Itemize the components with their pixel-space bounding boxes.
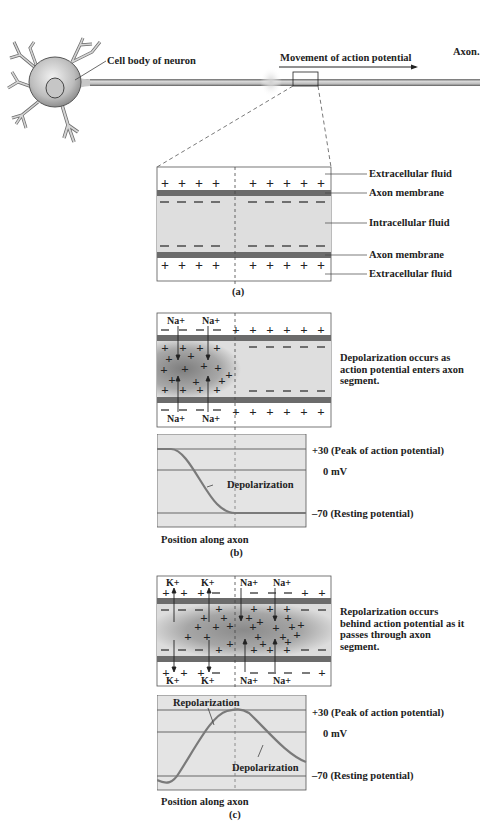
svg-text:+: + (160, 362, 167, 377)
depolarization-curve-label: Depolarization (227, 480, 294, 491)
movement-label: Movement of action potential (280, 53, 412, 64)
level-rest-b: –70 (Resting potential) (312, 509, 414, 520)
caption-a: (a) (232, 287, 244, 298)
svg-text:+: + (184, 629, 191, 644)
ion-label-k: K+ (201, 578, 214, 588)
svg-text:+: + (300, 176, 308, 191)
svg-text:+: + (256, 614, 263, 629)
label-extracellular-bottom: Extracellular fluid (369, 269, 452, 280)
level-peak-b: +30 (Peak of action potential) (312, 446, 444, 457)
svg-text:+: + (266, 404, 273, 419)
svg-text:+: + (168, 372, 175, 387)
svg-text:+: + (283, 258, 291, 273)
svg-text:+: + (300, 258, 308, 273)
svg-text:+: + (161, 176, 169, 191)
svg-text:+: + (226, 618, 233, 633)
svg-text:+: + (181, 361, 188, 376)
svg-text:+: + (232, 322, 239, 337)
svg-text:+: + (203, 629, 210, 644)
svg-text:+: + (213, 382, 220, 397)
svg-text:+: + (161, 258, 169, 273)
svg-text:+: + (213, 340, 220, 355)
ion-label-na: Na+ (167, 316, 185, 326)
svg-text:+: + (249, 322, 256, 337)
ion-label-na: Na+ (202, 414, 220, 424)
svg-text:+: + (317, 404, 324, 419)
svg-text:+: + (249, 258, 257, 273)
svg-text:+: + (293, 627, 300, 642)
svg-text:+: + (232, 404, 239, 419)
svg-text:+: + (161, 382, 168, 397)
level-zero-c: 0 mV (323, 729, 347, 740)
svg-text:+: + (317, 322, 324, 337)
svg-text:+: + (225, 367, 232, 382)
svg-text:+: + (266, 258, 274, 273)
ion-label-k: K+ (166, 676, 179, 686)
caption-c: (c) (229, 810, 241, 821)
svg-text:+: + (215, 642, 222, 657)
caption-b: (b) (230, 548, 243, 559)
svg-text:+: + (266, 176, 274, 191)
svg-text:+: + (195, 258, 203, 273)
svg-text:+: + (283, 322, 290, 337)
svg-text:+: + (212, 176, 220, 191)
svg-text:+: + (300, 322, 307, 337)
ion-label-na: Na+ (240, 676, 258, 686)
intracellular (157, 196, 331, 252)
svg-text:+: + (250, 642, 257, 657)
graph-c (157, 695, 307, 791)
level-zero-b: 0 mV (323, 467, 347, 478)
level-rest-c: –70 (Resting potential) (312, 771, 414, 782)
svg-text:+: + (194, 619, 201, 634)
ion-label-na: Na+ (240, 578, 258, 588)
neuron-diagram (0, 0, 480, 170)
svg-text:+: + (179, 340, 186, 355)
ion-label-k: K+ (166, 578, 179, 588)
svg-text:+: + (283, 404, 290, 419)
svg-text:+: + (180, 585, 187, 600)
svg-text:+: + (180, 665, 187, 680)
label-membrane-top: Axon membrane (369, 188, 444, 199)
svg-text:+: + (300, 404, 307, 419)
ion-label-na: Na+ (202, 316, 220, 326)
svg-text:+: + (317, 176, 325, 191)
arrow-right-icon (411, 65, 418, 70)
svg-text:+: + (195, 176, 203, 191)
depolarization-curve-label: Depolarization (232, 763, 299, 774)
svg-text:+: + (283, 642, 290, 657)
svg-text:+: + (266, 322, 273, 337)
action-potential-glow (260, 67, 282, 97)
svg-text:+: + (179, 382, 186, 397)
svg-text:+: + (266, 642, 273, 657)
repolarization-curve-label: Repolarization (173, 698, 240, 709)
label-membrane-bottom: Axon membrane (369, 250, 444, 261)
ion-label-na: Na+ (167, 414, 185, 424)
xlabel-c: Position along axon (161, 797, 249, 808)
ion-label-na: Na+ (273, 578, 291, 588)
ion-label-na: Na+ (273, 676, 291, 686)
svg-text:+: + (178, 258, 186, 273)
svg-text:+: + (266, 601, 273, 616)
svg-text:+: + (249, 404, 256, 419)
svg-text:+: + (178, 176, 186, 191)
svg-text:+: + (196, 382, 203, 397)
axon-label: Axon. (453, 47, 480, 58)
svg-text:+: + (212, 258, 220, 273)
svg-text:+: + (200, 358, 207, 373)
svg-text:+: + (318, 585, 325, 600)
depolarization-note: Depolarization occurs as action potentia… (340, 352, 468, 387)
svg-text:+: + (196, 340, 203, 355)
cell-body-label: Cell body of neuron (107, 56, 196, 67)
repolarization-note: Repolarization occurs behind action pote… (340, 606, 468, 652)
svg-text:+: + (317, 258, 325, 273)
nucleus (46, 78, 64, 98)
ion-label-k: K+ (201, 676, 214, 686)
svg-text:+: + (318, 665, 325, 680)
label-intracellular: Intracellular fluid (369, 218, 450, 229)
svg-text:+: + (249, 176, 257, 191)
xlabel-b: Position along axon (161, 535, 249, 546)
svg-text:+: + (226, 636, 233, 651)
label-extracellular-top: Extracellular fluid (369, 169, 452, 180)
level-peak-c: +30 (Peak of action potential) (312, 708, 444, 719)
svg-text:+: + (301, 585, 308, 600)
